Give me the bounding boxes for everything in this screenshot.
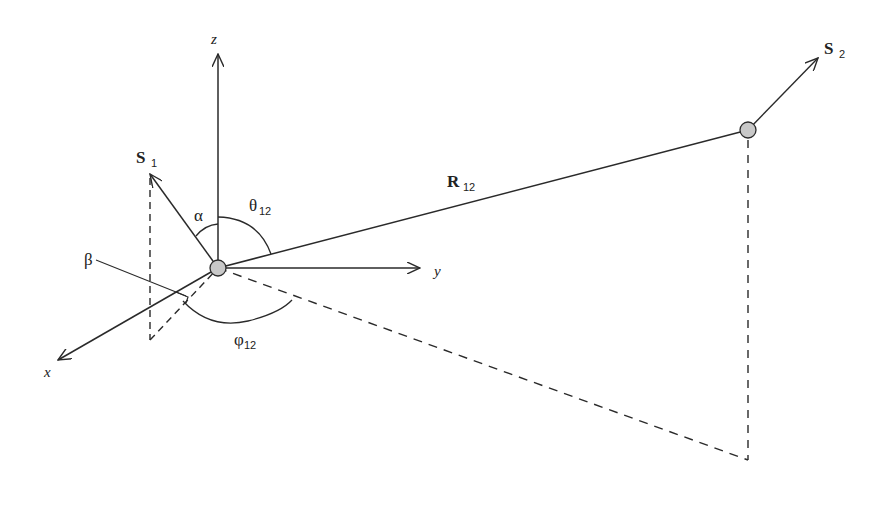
phi12-arc [183,300,292,323]
r12-line [218,130,748,268]
y-axis-label: y [432,263,441,279]
beta-angle-mark [176,292,188,303]
s2-vector [748,58,818,130]
beta-label: β [84,250,93,269]
phi12-label: φ [234,330,244,349]
s1-label: S [136,148,145,167]
s2-label: S [824,39,833,58]
beta-pointer-line [96,260,186,296]
theta12-label: θ [249,196,257,215]
particle-1 [210,260,226,276]
r12-projection-dashed [218,268,748,460]
theta12-subscript: 12 [259,205,271,217]
dipole-geometry-diagram: z y x S 1 S 2 R 12 α β θ 12 φ 12 [0,0,877,505]
x-axis-label: x [43,364,51,380]
z-axis-label: z [210,31,217,47]
r12-subscript: 12 [463,181,475,193]
x-axis [58,268,218,360]
particle-2 [740,122,756,138]
s2-subscript: 2 [839,48,845,60]
phi12-subscript: 12 [244,339,256,351]
s1-projection-base-dashed [150,268,218,340]
theta12-arc [218,217,271,254]
alpha-label: α [194,206,203,225]
s1-subscript: 1 [151,157,157,169]
s1-vector [150,174,218,268]
r12-label: R [447,172,460,191]
alpha-arc [196,224,218,236]
